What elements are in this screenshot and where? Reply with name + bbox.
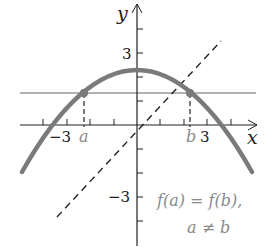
x-axis-label: x	[247, 126, 258, 148]
annotation-line-1: f(a) = f(b),	[156, 191, 242, 210]
point-a-label: a	[79, 127, 89, 146]
y-tick-label-neg3: −3	[108, 188, 130, 206]
graph-canvas: y x −3 3 3 −3 a b f(a) = f(b), a ≠ b	[0, 0, 269, 247]
function-graph-figure: y x −3 3 3 −3 a b f(a) = f(b), a ≠ b	[0, 0, 269, 247]
x-tick-label-neg3: −3	[49, 128, 71, 146]
point-b	[186, 89, 194, 97]
x-tick-label-3: 3	[200, 128, 210, 146]
point-b-label: b	[186, 127, 196, 146]
y-tick-label-3: 3	[122, 45, 132, 63]
point-a	[80, 89, 88, 97]
annotation-line-2: a ≠ b	[187, 218, 230, 237]
y-axis-label: y	[116, 2, 128, 24]
